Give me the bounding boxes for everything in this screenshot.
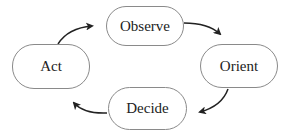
node-orient: Orient (200, 44, 278, 88)
node-label: Act (40, 58, 62, 75)
node-act: Act (12, 44, 90, 89)
arrow-observe-to-orient (184, 23, 220, 34)
node-label: Observe (120, 18, 170, 35)
node-label: Decide (126, 100, 168, 117)
arrow-decide-to-act (74, 103, 107, 113)
node-observe: Observe (106, 6, 184, 46)
arrow-act-to-observe (58, 26, 92, 44)
arrow-orient-to-decide (200, 89, 228, 112)
node-decide: Decide (108, 87, 187, 130)
node-label: Orient (220, 58, 258, 75)
